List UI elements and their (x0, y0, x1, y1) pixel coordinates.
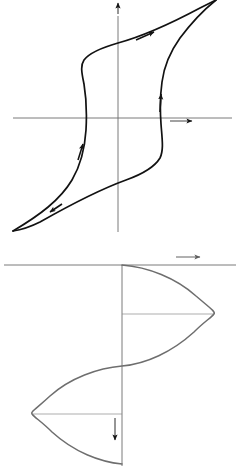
sine-curve (32, 265, 215, 464)
top-chart-group (13, 0, 232, 232)
arrow-up-right-branch-icon (160, 94, 161, 112)
figure-root (0, 0, 240, 471)
loop-direction-arrows (50, 32, 161, 212)
bottom-chart-group (4, 257, 236, 466)
hysteresis-descending-branch (13, 0, 216, 231)
hysteresis-ascending-branch (13, 0, 216, 231)
hysteresis-figure (0, 0, 240, 471)
